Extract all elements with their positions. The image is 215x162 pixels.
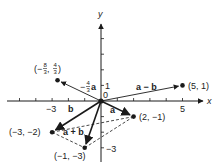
label-numerator: 4 [87,80,91,86]
point-label-minus-1-minus-3: (−1, −3) [54,151,86,161]
x-tick-label-5: 5 [180,104,185,114]
vector-b [55,101,101,130]
point-p-m8_3-4_3 [55,78,60,83]
y-tick-label-1: 1 [105,81,110,91]
label-d2: 3 [54,69,58,75]
origin-label: 0 [103,90,108,100]
vector-label-a-plus-b: a + b [63,127,84,137]
origin-point [98,98,103,103]
point-label-minus-3-minus-2: (−3, −2) [9,127,41,137]
label-suffix: a [91,82,97,92]
vector-labels: a − b a b a + b − 4 3 a [63,80,157,137]
y-axis-label: y [97,9,103,19]
vector-a-plus-b [86,101,101,144]
x-axis-label: x [206,96,212,106]
point-p-m1-m3 [82,146,87,151]
point-label-minus-8-thirds-4-thirds: (− 8 3 , 4 3 ) [34,62,61,75]
vector-label-a: a [110,105,116,115]
label-prefix: − [80,82,85,92]
y-tick-label-minus-3: −3 [106,144,116,154]
label-denominator: 3 [87,87,91,93]
vector-diagram: x y 0 −3 5 1 −3 a − b a b a + b − 4 3 a … [0,0,215,162]
vector-a [101,101,130,115]
point-p-2-m1 [131,114,136,119]
label-n2: 4 [54,62,58,68]
vector-label-minus-four-thirds-a: − 4 3 a [80,80,97,93]
vector-label-a-minus-b: a − b [136,82,157,92]
point-p-5-1 [180,83,185,88]
point-label-2-minus-1: (2, −1) [139,112,165,122]
vector-label-b: b [68,104,74,114]
point-label-5-1: (5, 1) [188,81,209,91]
label-open: (− [34,64,42,74]
point-p-m3-m2 [50,130,55,135]
x-tick-label-minus-3: −3 [46,104,56,114]
label-sep: , [47,64,50,74]
label-close: ) [58,64,61,74]
